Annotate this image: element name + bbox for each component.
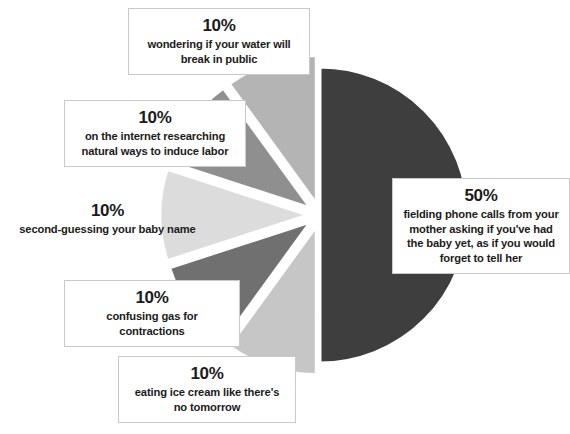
callout-internet-research: 10% on the internet researching natural …	[64, 100, 246, 167]
callout-description: wondering if your water will break in pu…	[138, 37, 300, 66]
callout-gas-contractions: 10% confusing gas for contractions	[64, 280, 240, 347]
callout-baby-name: 10% second-guessing your baby name	[0, 194, 215, 245]
callout-phone-calls: 50% fielding phone calls from your mothe…	[392, 178, 570, 274]
callout-ice-cream: 10% eating ice cream like there's no tom…	[118, 356, 296, 423]
callout-percent: 10%	[74, 288, 230, 307]
callout-percent: 10%	[128, 364, 286, 383]
callout-percent: 10%	[9, 201, 206, 220]
callout-percent: 10%	[74, 108, 236, 127]
callout-water-break: 10% wondering if your water will break i…	[128, 8, 310, 75]
callout-description: confusing gas for contractions	[74, 309, 230, 338]
callout-percent: 50%	[402, 186, 560, 205]
callout-description: eating ice cream like there's no tomorro…	[128, 385, 286, 414]
callout-description: second-guessing your baby name	[9, 222, 206, 237]
pie-chart-infographic: 10% wondering if your water will break i…	[0, 0, 570, 434]
callout-description: fielding phone calls from your mother as…	[402, 207, 560, 265]
callout-percent: 10%	[138, 16, 300, 35]
callout-description: on the internet researching natural ways…	[74, 129, 236, 158]
